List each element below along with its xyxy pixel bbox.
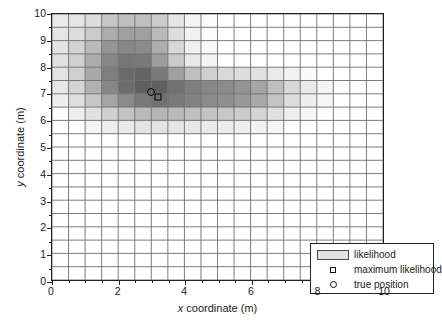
- y-tick-label: 5: [40, 141, 46, 153]
- x-axis-title: x coordinate (m): [51, 302, 384, 314]
- y-tick-label: 7: [40, 87, 46, 99]
- x-tick-label: 6: [248, 285, 254, 297]
- x-tick-label: 2: [115, 285, 121, 297]
- x-tick-label: 8: [314, 285, 320, 297]
- plot-area: likelihood maximum likelihood true posit…: [51, 13, 384, 281]
- legend-entry-maximum-likelihood: maximum likelihood: [315, 262, 428, 277]
- y-tick-label: 2: [40, 221, 46, 233]
- y-axis-title: y coordinate (m): [14, 13, 26, 281]
- x-tick-label: 0: [48, 285, 54, 297]
- legend-label-likelihood: likelihood: [351, 249, 396, 260]
- x-tick-label: 4: [181, 285, 187, 297]
- y-axis-title-rest: coordinate (m): [14, 107, 26, 181]
- y-tick-label: 6: [40, 114, 46, 126]
- y-axis-title-symbol: y: [14, 181, 26, 187]
- y-tick-label: 3: [40, 195, 46, 207]
- y-tick-label: 9: [40, 34, 46, 46]
- y-tick-label: 10: [34, 7, 46, 19]
- y-tick-label: 0: [40, 275, 46, 287]
- legend-label-maximum-likelihood: maximum likelihood: [351, 264, 442, 275]
- y-tick-label: 1: [40, 248, 46, 260]
- y-tick-label: 8: [40, 61, 46, 73]
- x-tick-label: 10: [378, 285, 390, 297]
- legend-entry-likelihood: likelihood: [315, 247, 428, 262]
- x-axis-tick-labels: 0246810: [51, 285, 384, 299]
- data-markers: [52, 14, 383, 280]
- y-tick-label: 4: [40, 168, 46, 180]
- marker-maximum-likelihood: [154, 93, 161, 100]
- x-axis-title-rest: coordinate (m): [183, 302, 257, 314]
- legend-swatch-icon: [315, 250, 351, 260]
- legend-square-icon: [315, 267, 351, 273]
